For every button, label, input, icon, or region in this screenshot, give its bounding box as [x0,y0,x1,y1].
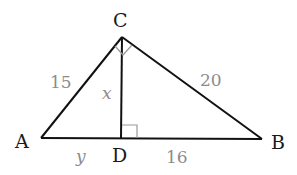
side-length-ac: 15 [50,72,72,92]
right-angle-mark-c [115,45,132,55]
right-angle-marks [115,45,137,138]
vertex-label-b: B [271,131,285,153]
side-cb [122,37,262,139]
variable-x: x [102,83,112,103]
triangle-diagram: C A B D 15 20 16 x y [0,0,297,175]
side-length-cb: 20 [200,70,222,90]
side-ab [41,138,262,139]
triangle-sides [41,37,262,139]
vertex-label-a: A [14,130,29,152]
vertex-label-d: D [112,144,127,166]
right-angle-mark-d [122,125,137,138]
variable-y: y [75,146,86,166]
vertex-label-c: C [113,9,128,31]
side-length-db: 16 [166,147,188,167]
